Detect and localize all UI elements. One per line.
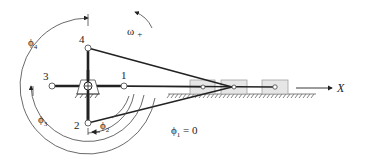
joint-2 [85, 120, 91, 126]
label-1: 1 [121, 69, 127, 81]
joint-1 [121, 83, 127, 89]
omega-arrow [135, 12, 152, 28]
joint-4 [85, 45, 91, 51]
coupler-from-4 [88, 48, 232, 87]
phi2-label: ϕ2 [100, 119, 110, 134]
omega-label: ω+ [127, 25, 142, 39]
label-3: 3 [43, 70, 49, 82]
phi4-label: ϕ4 [28, 36, 38, 51]
x-axis-label: X [336, 81, 345, 95]
label-4: 4 [79, 33, 85, 45]
phi3-label: ϕ3 [38, 113, 48, 128]
slider-pin-c [273, 85, 277, 89]
coupler-from-2 [88, 87, 232, 123]
slider-pin-b [232, 85, 236, 89]
slider-crank-diagram: 4 1 3 2 ϕ4 ϕ3 ϕ2 ϕ1 = 0 ω+ X [0, 0, 366, 166]
phi1-label: ϕ1 = 0 [171, 124, 198, 139]
label-2: 2 [74, 119, 80, 131]
slider-pin-a [201, 85, 205, 89]
joint-3 [49, 83, 55, 89]
